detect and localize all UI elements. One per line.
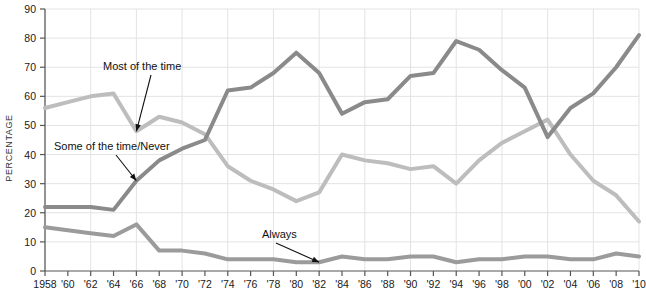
x-axis-tick-label: '04 (564, 278, 578, 290)
x-axis-tick-label: '98 (495, 278, 509, 290)
x-axis-tick-label: '62 (84, 278, 98, 290)
y-axis-tick-label: 70 (24, 61, 36, 73)
x-axis-tick-label: '84 (335, 278, 349, 290)
annotation-label: Some of the time/Never (54, 140, 170, 152)
x-axis-tick-label: '96 (472, 278, 486, 290)
x-axis-tick-label: '10 (632, 278, 646, 290)
y-axis-tick-label: 50 (24, 119, 36, 131)
x-axis-tick-label: '00 (518, 278, 532, 290)
x-axis-tick-label: 1958 (33, 278, 57, 290)
y-axis-tick-label: 80 (24, 32, 36, 44)
chart-container: PERCENTAGE 0102030405060708090 1958'60'6… (0, 0, 646, 296)
x-axis-tick-label: '90 (404, 278, 418, 290)
x-axis-tick-label: '64 (107, 278, 121, 290)
y-axis-tick-label: 40 (24, 149, 36, 161)
x-axis-tick-label: '02 (541, 278, 555, 290)
x-axis-tick-label: '60 (61, 278, 75, 290)
x-axis-tick-label: '08 (609, 278, 623, 290)
annotation-arrow-head (312, 257, 320, 262)
y-axis: 0102030405060708090 (24, 3, 45, 277)
x-axis-tick-label: '72 (198, 278, 212, 290)
x-axis-tick-label: '74 (221, 278, 235, 290)
x-axis-tick-label: '70 (175, 278, 189, 290)
x-axis-tick-label: '68 (152, 278, 166, 290)
y-axis-tick-label: 60 (24, 90, 36, 102)
x-axis-tick-label: '92 (427, 278, 441, 290)
x-axis-tick-label: '06 (586, 278, 600, 290)
x-axis-tick-label: '76 (244, 278, 258, 290)
annotation-label: Always (262, 228, 297, 240)
x-axis: 1958'60'62'64'66'68'70'72'74'76'78'80'82… (33, 271, 646, 290)
y-axis-tick-label: 20 (24, 207, 36, 219)
x-axis-tick-label: '88 (381, 278, 395, 290)
series-line-always (45, 224, 639, 262)
x-axis-tick-label: '78 (267, 278, 281, 290)
x-axis-tick-label: '94 (449, 278, 463, 290)
y-axis-tick-label: 90 (24, 3, 36, 15)
annotation-label: Most of the time (103, 60, 181, 72)
y-axis-tick-label: 30 (24, 178, 36, 190)
x-axis-tick-label: '66 (130, 278, 144, 290)
y-axis-tick-label: 10 (24, 236, 36, 248)
x-axis-tick-label: '80 (289, 278, 303, 290)
line-chart: 0102030405060708090 1958'60'62'64'66'68'… (0, 0, 646, 296)
x-axis-tick-label: '82 (312, 278, 326, 290)
x-axis-tick-label: '86 (358, 278, 372, 290)
y-axis-tick-label: 0 (30, 265, 36, 277)
